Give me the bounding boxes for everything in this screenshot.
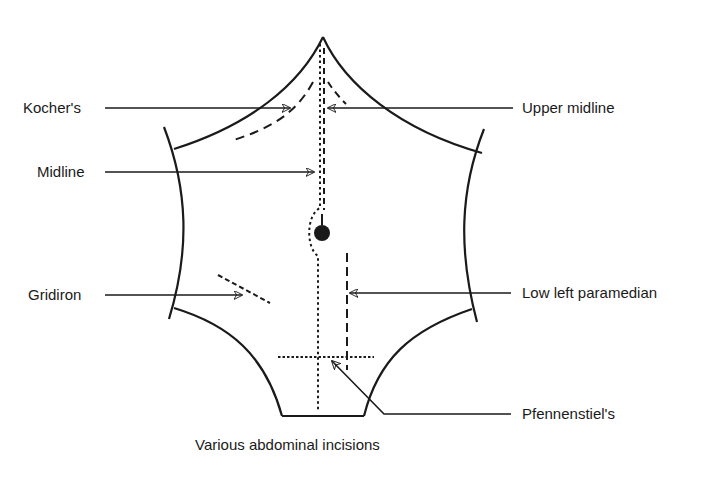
left-costal-margin: [174, 37, 323, 149]
figure-caption: Various abdominal incisions: [195, 436, 380, 454]
umbilicus-dot: [314, 225, 330, 241]
gridiron-incision: [218, 275, 270, 303]
kochers-incision: [234, 82, 313, 140]
right-costal-margin: [323, 37, 482, 153]
label-upper-midline: Upper midline: [522, 99, 615, 117]
left-iliac-crest: [174, 308, 282, 416]
label-kochers: Kocher's: [23, 99, 81, 117]
upper-right-dash: [328, 82, 346, 104]
label-low-left-paramedian: Low left paramedian: [522, 284, 657, 302]
left-flank: [164, 127, 183, 319]
label-midline: Midline: [37, 163, 85, 181]
pfannenstiel-leader: [332, 361, 511, 414]
label-gridiron: Gridiron: [28, 286, 81, 304]
right-iliac-crest: [364, 309, 472, 416]
label-pfannenstiel: Pfennenstiel's: [522, 405, 615, 423]
